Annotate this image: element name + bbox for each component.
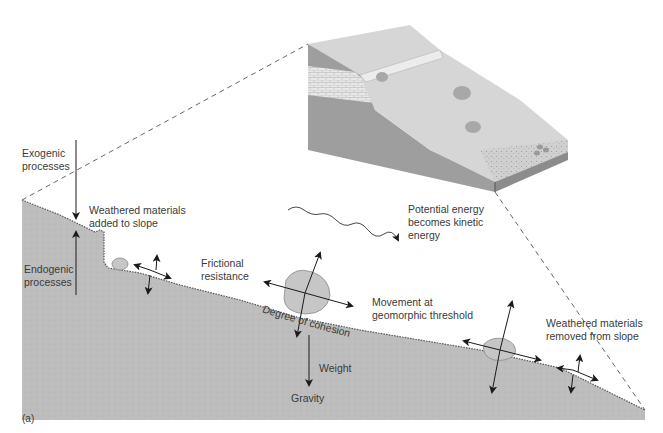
gravity-label: Gravity xyxy=(291,392,324,405)
movement-threshold-label: Movement atgeomorphic threshold xyxy=(372,296,473,322)
slope-block-inset xyxy=(308,25,568,192)
frictional-resistance-label: Frictionalresistance xyxy=(201,257,249,283)
exogenic-label: Exogenicprocesses xyxy=(22,147,70,173)
weathered-removed-label: Weathered materialsremoved from slope xyxy=(546,317,643,343)
weathered-added-label: Weathered materialsadded to slope xyxy=(89,204,186,230)
large-rock xyxy=(284,270,330,314)
lower-rock xyxy=(483,338,515,360)
hillslope-ground xyxy=(22,200,645,420)
panel-label: (a) xyxy=(22,412,34,425)
potential-energy-label: Potential energybecomes kineticenergy xyxy=(408,203,484,242)
endogenic-label: Endogenicprocesses xyxy=(24,263,74,289)
small-rock xyxy=(112,258,128,270)
weight-label: Weight xyxy=(319,362,352,375)
energy-wave-arrow xyxy=(288,207,398,240)
